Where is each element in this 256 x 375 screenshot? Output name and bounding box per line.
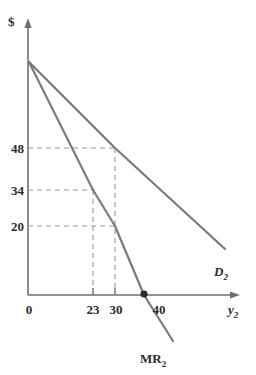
curve-label-mr2: MR2 — [140, 352, 166, 369]
x-axis-arrow-icon — [230, 291, 240, 298]
x-axis-label: y2 — [228, 303, 238, 320]
x-axis-ticks — [93, 288, 115, 295]
x-axis — [28, 291, 240, 298]
y-axis-label: $ — [8, 15, 15, 28]
x-tick-label-0: 0 — [17, 303, 41, 316]
curve-label-d2-text: D — [214, 264, 223, 279]
x-tick-label-23: 23 — [81, 303, 105, 316]
dashed-guides — [28, 148, 117, 295]
y-axis — [24, 18, 31, 295]
chart-plot-area — [0, 0, 256, 375]
x-tick-label-40: 40 — [147, 303, 171, 316]
x-axis-label-subscript: 2 — [234, 310, 239, 320]
curve-label-d2-subscript: 2 — [223, 272, 228, 282]
y-tick-label-48: 48 — [0, 142, 24, 155]
x-tick-label-30: 30 — [104, 303, 128, 316]
y-tick-label-34: 34 — [0, 184, 24, 197]
curve-mr2 — [29, 62, 173, 341]
y-axis-arrow-icon — [24, 18, 31, 28]
curve-label-mr2-text: MR — [140, 351, 162, 366]
mr2-x-intercept-dot — [140, 290, 147, 297]
curve-d2 — [29, 62, 225, 249]
curve-label-d2: D2 — [214, 265, 228, 282]
economics-chart: $ y2 48 34 20 0 23 30 40 D2 MR2 — [0, 0, 256, 375]
y-tick-label-20: 20 — [0, 220, 24, 233]
curve-label-mr2-subscript: 2 — [162, 359, 167, 369]
